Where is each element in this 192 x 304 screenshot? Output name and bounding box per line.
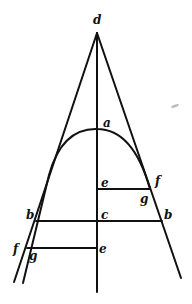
label-f-left: f [13,243,18,255]
label-f-right: f [155,175,160,187]
curve [23,129,150,283]
label-c: c [101,209,108,221]
label-a: a [103,117,111,129]
label-b-right: b [164,209,172,221]
smudge-mark [171,104,179,109]
label-d: d [93,14,101,26]
triangle-right-side [97,33,181,278]
label-g-left: g [29,250,37,262]
label-g-right: g [140,193,148,205]
label-b-left: b [26,209,34,221]
label-e-upper: e [101,177,109,189]
label-e-lower: e [99,243,107,255]
